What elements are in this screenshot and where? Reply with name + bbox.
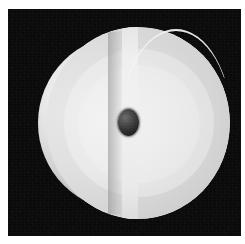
layer-inner-shell-interior xyxy=(78,65,200,183)
figure-root: Grayscale three-dimensional rendering of… xyxy=(0,0,245,244)
cutaway-sphere-object xyxy=(34,27,230,219)
render-canvas xyxy=(8,9,241,236)
core-sphere xyxy=(118,109,139,136)
